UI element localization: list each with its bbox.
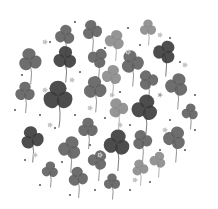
dot-icon bbox=[39, 114, 41, 116]
clover-icon bbox=[78, 17, 106, 43]
clover-icon bbox=[65, 165, 92, 189]
flower-icon bbox=[88, 105, 93, 110]
flower-icon bbox=[133, 177, 138, 182]
clover-icon bbox=[128, 157, 151, 178]
dot-icon bbox=[79, 71, 81, 73]
clover-icon bbox=[179, 102, 201, 122]
flower-icon bbox=[118, 122, 123, 127]
dot-icon bbox=[149, 181, 151, 183]
dot-icon bbox=[24, 159, 26, 161]
dot-icon bbox=[94, 189, 96, 191]
dot-icon bbox=[169, 37, 171, 39]
dot-icon bbox=[39, 184, 41, 186]
dot-icon bbox=[194, 94, 196, 96]
clover-icon bbox=[147, 35, 182, 69]
flower-icon bbox=[163, 127, 168, 132]
dot-icon bbox=[129, 124, 131, 126]
flower-icon bbox=[70, 77, 75, 82]
dot-icon bbox=[21, 74, 23, 76]
dot-icon bbox=[184, 149, 186, 151]
flower-icon bbox=[158, 32, 163, 37]
flower-icon bbox=[43, 87, 48, 92]
clover-icon bbox=[160, 69, 194, 101]
dot-icon bbox=[74, 114, 76, 116]
clover-icon bbox=[103, 94, 133, 122]
dot-icon bbox=[61, 161, 63, 163]
clover-icon bbox=[76, 118, 99, 138]
dot-icon bbox=[127, 27, 129, 29]
dot-icon bbox=[69, 194, 71, 196]
clover-icon bbox=[40, 81, 75, 111]
clover-icon bbox=[133, 65, 163, 94]
clover-icon bbox=[52, 23, 79, 47]
flower-icon bbox=[158, 92, 163, 97]
clover-icon bbox=[13, 82, 36, 102]
dot-icon bbox=[194, 129, 196, 131]
clover-icon bbox=[15, 46, 46, 74]
dot-icon bbox=[54, 127, 56, 129]
dot-icon bbox=[179, 61, 181, 63]
clover-icon bbox=[16, 123, 48, 153]
clover-cluster bbox=[13, 17, 201, 190]
dot-icon bbox=[104, 47, 106, 49]
clover-icon bbox=[50, 45, 79, 71]
dot-icon bbox=[159, 149, 161, 151]
clover-icon bbox=[146, 149, 170, 172]
clover-icon bbox=[138, 20, 157, 37]
clover-illustration bbox=[0, 0, 218, 209]
dot-icon bbox=[129, 189, 131, 191]
flower-icon bbox=[110, 92, 115, 97]
dot-icon bbox=[119, 91, 121, 93]
clover-icon bbox=[101, 26, 130, 53]
clover-icon bbox=[128, 126, 157, 153]
clover-icon bbox=[102, 174, 121, 191]
dot-icon bbox=[89, 144, 91, 146]
flower-icon bbox=[183, 62, 188, 67]
flower-icon bbox=[48, 122, 53, 127]
dot-icon bbox=[74, 21, 76, 23]
clover-icon bbox=[158, 121, 193, 154]
dot-icon bbox=[104, 117, 106, 119]
dot-icon bbox=[139, 44, 141, 46]
dot-icon bbox=[49, 41, 51, 43]
dot-icon bbox=[14, 109, 16, 111]
flower-icon bbox=[33, 152, 38, 157]
flower-icon bbox=[43, 39, 48, 44]
dot-icon bbox=[169, 119, 171, 121]
clover-icon bbox=[40, 161, 61, 179]
clover-icon bbox=[53, 132, 87, 164]
